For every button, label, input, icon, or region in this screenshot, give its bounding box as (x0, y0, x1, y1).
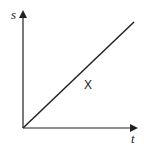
x-axis-label: t (131, 131, 135, 146)
line-label: X (84, 78, 92, 92)
data-line-x (23, 22, 134, 128)
s-t-graph: s t X (0, 0, 148, 146)
y-axis-label: s (11, 7, 16, 22)
